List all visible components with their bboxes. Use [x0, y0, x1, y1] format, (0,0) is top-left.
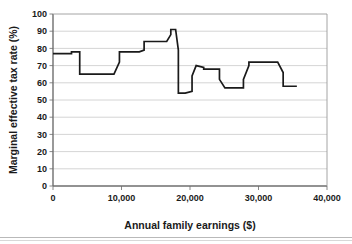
figure-bottom-rule — [0, 237, 352, 238]
x-axis-tick-labels: 010,00020,00030,00040,000 — [50, 193, 340, 203]
x-tick-label: 20,000 — [176, 193, 204, 203]
y-tick-label: 30 — [37, 130, 47, 140]
chart-figure: 0102030405060708090100 010,00020,00030,0… — [0, 0, 352, 244]
y-axis-tick-labels: 0102030405060708090100 — [32, 9, 47, 191]
y-tick-label: 50 — [37, 95, 47, 105]
y-tick-label: 60 — [37, 78, 47, 88]
x-tick-label: 10,000 — [108, 193, 136, 203]
x-tick-label: 40,000 — [313, 193, 341, 203]
y-tick-label: 40 — [37, 112, 47, 122]
y-tick-label: 90 — [37, 26, 47, 36]
y-tick-label: 10 — [37, 164, 47, 174]
y-tick-label: 80 — [37, 44, 47, 54]
marginal-tax-rate-line-chart: 0102030405060708090100 010,00020,00030,0… — [0, 0, 352, 244]
y-axis-title: Marginal effective tax rate (%) — [7, 26, 19, 174]
x-tick-label: 0 — [50, 193, 55, 203]
figure-bottom-rule-secondary — [0, 240, 352, 241]
y-tick-label: 0 — [42, 181, 47, 191]
y-tick-label: 100 — [32, 9, 47, 19]
x-tick-label: 30,000 — [245, 193, 273, 203]
x-axis-title: Annual family earnings ($) — [124, 219, 255, 231]
y-tick-label: 20 — [37, 147, 47, 157]
y-tick-label: 70 — [37, 61, 47, 71]
